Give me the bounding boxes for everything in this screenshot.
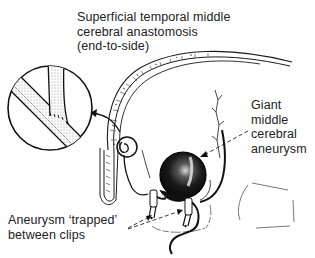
giant-aneurysm-sphere [160,152,206,201]
anastomosis-label-line-2: cerebral anastomosis [77,25,230,40]
distal-clip [183,198,192,227]
superficial-temporal-artery [117,137,148,195]
trapped-leaders [128,211,180,229]
trapped-label-line-1: Aneurysm ‘trapped’ [8,213,118,228]
scalp-flap [100,148,118,205]
trapped-label-line-2: between clips [8,228,118,243]
magnified-anastomosis-inset [0,60,92,152]
anastomosis-label: Superficial temporal middle cerebral ana… [77,10,230,54]
giant-aneurysm-label-line-3: cerebral [251,127,307,142]
giant-aneurysm-label-line-4: aneurysm [251,142,307,157]
temporal-lobe-contour [152,205,211,232]
ventricle-outline [238,183,294,228]
trapped-aneurysm-label: Aneurysm ‘trapped’ between clips [8,213,118,242]
proximal-clip [149,190,157,219]
giant-aneurysm-label: Giant middle cerebral aneurysm [251,98,307,156]
anastomosis-label-line-3: (end-to-side) [77,39,230,54]
giant-aneurysm-label-line-1: Giant [251,98,307,113]
anastomosis-label-line-1: Superficial temporal middle [77,10,230,25]
trapped-arrowhead-2 [177,209,183,215]
giant-aneurysm-label-line-2: middle [251,113,307,128]
